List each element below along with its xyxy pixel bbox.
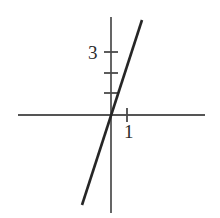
- plot-background: [0, 0, 220, 218]
- coordinate-plane: [0, 0, 220, 218]
- x-axis-tick-label-1: 1: [124, 122, 134, 141]
- graph-figure: 3 1: [0, 0, 220, 218]
- y-axis-tick-label-3: 3: [88, 43, 98, 62]
